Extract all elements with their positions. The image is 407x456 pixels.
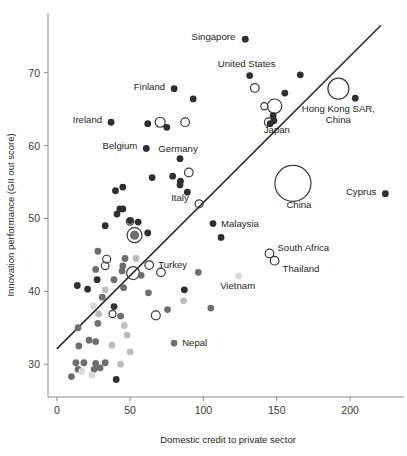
data-point-labeled [210, 220, 217, 227]
data-point [102, 359, 109, 366]
x-tick-label: 100 [195, 404, 213, 416]
data-point [164, 306, 171, 313]
data-point [94, 320, 101, 327]
data-point [78, 368, 85, 375]
point-label: Japan [264, 124, 290, 135]
data-point [135, 219, 142, 226]
data-point [94, 248, 101, 255]
data-point-labeled [246, 72, 253, 79]
data-point [144, 120, 151, 127]
point-label: Thailand [283, 263, 320, 274]
data-point [297, 71, 304, 78]
point-label: Cyprus [346, 186, 377, 197]
data-point [91, 366, 98, 373]
trendline [57, 25, 381, 349]
data-point [81, 359, 88, 366]
data-point [133, 255, 140, 262]
data-point [94, 276, 101, 283]
data-point [127, 348, 134, 355]
data-point [149, 174, 156, 181]
data-point-labeled [382, 190, 389, 197]
data-point-labeled [108, 119, 115, 126]
data-point [89, 372, 96, 379]
data-point [119, 184, 126, 191]
data-point [92, 266, 99, 273]
data-point [163, 124, 170, 131]
data-point [352, 95, 359, 102]
data-point-labeled [177, 155, 184, 162]
point-label: Turkey [158, 259, 187, 270]
data-point [190, 96, 197, 103]
data-point-labeled [242, 36, 249, 43]
data-point [68, 373, 75, 380]
data-point-labeled [328, 78, 349, 99]
y-axis-title: Innovation performance (GII out score) [5, 133, 16, 296]
data-point [84, 286, 91, 293]
data-point [97, 364, 104, 371]
point-label: Finland [134, 81, 165, 92]
x-tick-label: 50 [124, 404, 136, 416]
data-point [181, 286, 188, 293]
data-point-labeled [171, 85, 178, 92]
data-point [111, 303, 118, 310]
data-point [195, 269, 202, 276]
data-point [117, 361, 124, 368]
data-point-labeled [145, 261, 154, 270]
data-point-labeled [275, 165, 311, 201]
data-point [267, 99, 281, 113]
y-tick-label: 50 [28, 212, 40, 224]
data-point-labeled [143, 145, 150, 152]
data-point [90, 302, 97, 309]
y-tick-label: 70 [28, 67, 40, 79]
data-point [119, 268, 126, 275]
data-point [251, 84, 260, 93]
x-tick-label: 0 [54, 404, 60, 416]
point-label: Nepal [182, 337, 207, 348]
data-point-labeled [177, 182, 184, 189]
data-point [207, 305, 214, 312]
data-point [281, 90, 288, 97]
data-point [138, 272, 145, 279]
data-point [145, 289, 152, 296]
data-point [99, 294, 106, 301]
point-label: Belgium [103, 140, 138, 151]
y-tick-label: 30 [28, 358, 40, 370]
data-point [169, 173, 176, 180]
data-point-labeled [171, 340, 178, 347]
data-point [121, 322, 128, 329]
data-point [120, 284, 127, 291]
data-point [218, 234, 225, 241]
data-point [75, 343, 82, 350]
point-label: China [286, 199, 312, 210]
data-point [155, 117, 165, 127]
data-point [117, 313, 124, 320]
point-label: Singapore [192, 31, 236, 42]
data-point [75, 324, 82, 331]
point-label: Malaysia [221, 218, 260, 229]
x-tick-label: 200 [341, 404, 359, 416]
data-point [114, 211, 121, 218]
data-point [119, 206, 126, 213]
data-point [108, 342, 115, 349]
scatter-chart: SingaporeUnited StatesFinlandHong Kong S… [0, 0, 407, 456]
data-points-layer [68, 36, 389, 383]
point-label: Germany [158, 143, 198, 154]
data-point [86, 337, 93, 344]
chart-canvas: SingaporeUnited StatesFinlandHong Kong S… [0, 0, 407, 456]
data-point [122, 255, 129, 262]
data-point [111, 276, 118, 283]
data-point [112, 187, 119, 194]
y-tick-label: 60 [28, 140, 40, 152]
data-point [72, 359, 79, 366]
point-label: South Africa [277, 242, 329, 253]
data-point-labeled [235, 273, 242, 280]
data-point [151, 311, 160, 320]
data-point [124, 332, 131, 339]
data-point [92, 338, 99, 345]
data-point [113, 376, 120, 383]
data-point [181, 118, 190, 127]
data-point [102, 222, 109, 229]
data-point [130, 231, 139, 240]
point-label: Hong Kong SAR,China [302, 103, 375, 125]
point-label: Italy [171, 192, 189, 203]
